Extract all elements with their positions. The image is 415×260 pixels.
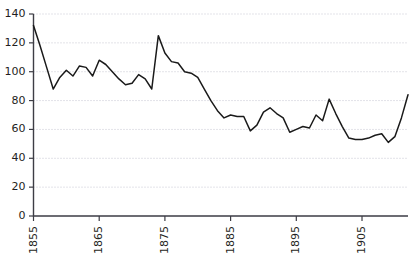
y-tick-label-40: 40 [12, 151, 26, 164]
y-tick-label-140: 140 [5, 7, 26, 20]
gridlines [34, 14, 409, 187]
y-tick-label-0: 0 [19, 209, 26, 222]
x-tick-label-1855: 1855 [27, 226, 40, 254]
x-axis-ticks [34, 216, 363, 221]
x-tick-label-1865: 1865 [92, 226, 105, 254]
line-chart: 020406080100120140 185518651875188518951… [0, 0, 415, 260]
y-tick-label-60: 60 [12, 122, 26, 135]
y-tick-label-80: 80 [12, 94, 26, 107]
x-tick-label-1905: 1905 [355, 226, 368, 254]
y-tick-label-120: 120 [5, 36, 26, 49]
x-axis-tick-labels: 185518651875188518951905 [27, 226, 369, 254]
y-axis-tick-labels: 020406080100120140 [5, 7, 26, 222]
x-tick-label-1885: 1885 [224, 226, 237, 254]
y-tick-label-100: 100 [5, 65, 26, 78]
x-tick-label-1875: 1875 [158, 226, 171, 254]
y-tick-label-20: 20 [12, 180, 26, 193]
x-tick-label-1895: 1895 [289, 226, 302, 254]
chart-canvas: 020406080100120140 185518651875188518951… [0, 0, 415, 260]
